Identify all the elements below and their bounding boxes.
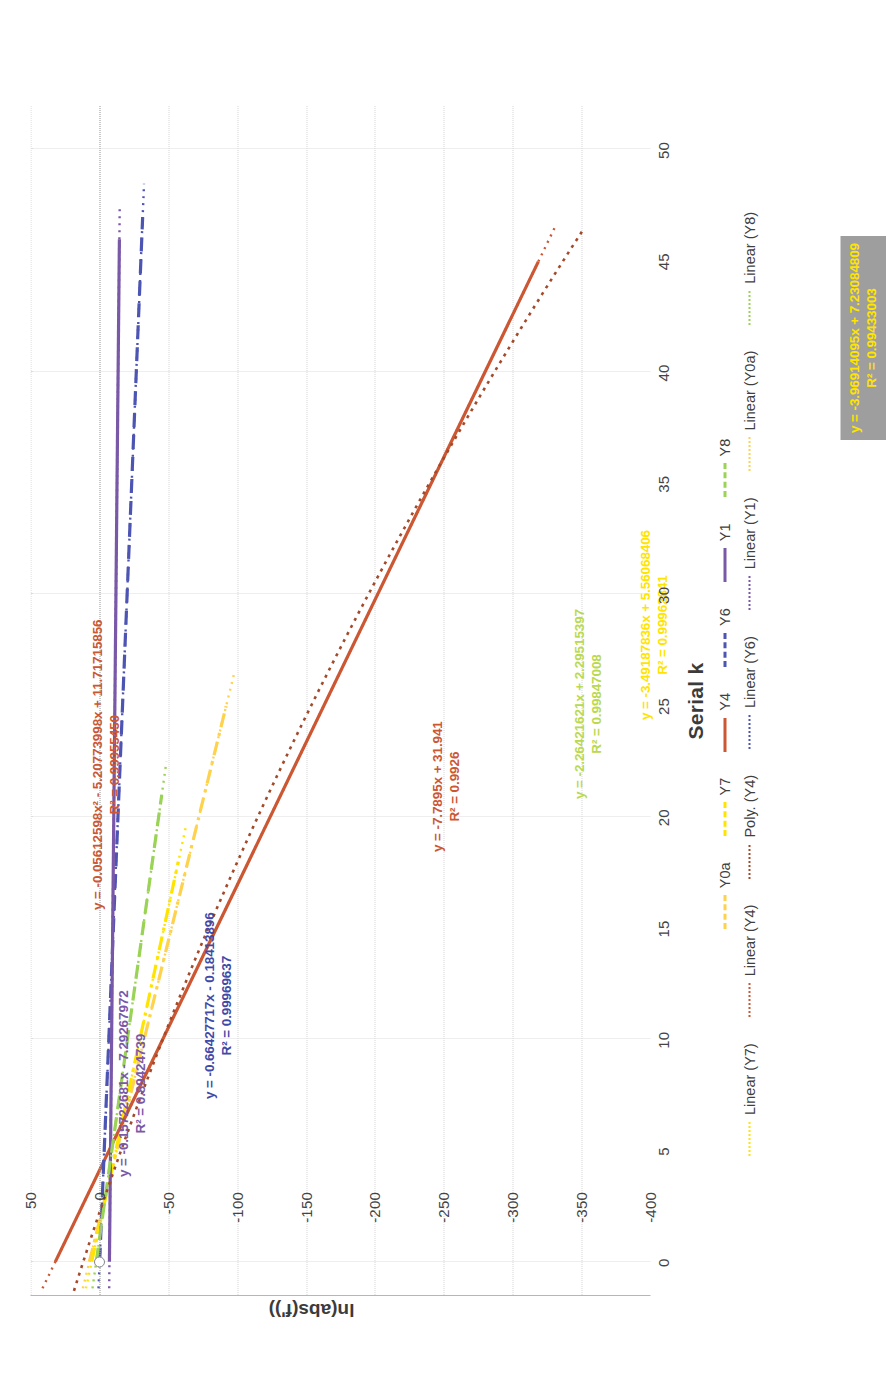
y-tick-label: -350 bbox=[573, 1192, 590, 1252]
legend-swatch-icon bbox=[723, 718, 726, 752]
legend-swatch-icon bbox=[748, 845, 750, 879]
x-tick-label: 30 bbox=[654, 587, 671, 604]
legend-swatch-icon bbox=[723, 895, 726, 929]
y-tick-label: -100 bbox=[228, 1192, 245, 1252]
legend-swatch-icon bbox=[723, 633, 726, 667]
x-tick-label: 45 bbox=[654, 253, 671, 270]
equation-text: y = -2.26421621x + 2.29515397 bbox=[570, 609, 587, 799]
x-tick-label: 25 bbox=[654, 698, 671, 715]
y-tick-label: -300 bbox=[504, 1192, 521, 1252]
origin-marker bbox=[93, 1256, 104, 1267]
equation-text: y = -0.15722681x - 7.29267972 bbox=[114, 990, 131, 1177]
plot-area: y = -0.15722681x - 7.29267972 R² = 0.894… bbox=[30, 106, 650, 1296]
legend-item-y1[interactable]: Y1 bbox=[716, 523, 732, 582]
x-tick-label: 20 bbox=[654, 809, 671, 826]
legend-item-y6[interactable]: Y6 bbox=[716, 608, 732, 667]
x-tick-label: 35 bbox=[654, 476, 671, 493]
x-axis-tick-labels: 05101520253035404550 bbox=[652, 106, 674, 1296]
legend-swatch-icon bbox=[723, 548, 726, 582]
equation-label-linear-y4: y = -7.7895x + 31.941 R² = 0.9926 bbox=[428, 721, 463, 852]
equation-label-poly-y4: y = -0.05612598x² - 5.20773998x + 11.717… bbox=[88, 619, 123, 910]
legend-label: Y1 bbox=[716, 523, 732, 541]
x-tick-label: 50 bbox=[654, 142, 671, 159]
legend-label: Linear (Y1) bbox=[741, 498, 757, 570]
r-squared-text: R² = 0.99955450 bbox=[105, 619, 122, 910]
legend-swatch-icon bbox=[748, 715, 750, 749]
equation-text: y = -3.96914095x + 7.23084809 bbox=[845, 243, 862, 433]
legend-label: Y4 bbox=[716, 693, 732, 711]
legend-label: Poly. (Y4) bbox=[741, 775, 757, 838]
legend-item-linear-y4[interactable]: Linear (Y4) bbox=[741, 905, 757, 1018]
x-tick-label: 15 bbox=[654, 920, 671, 937]
chart-legend: Y0aY7Y4Y6Y1Y8 Linear (Y7)Linear (Y4)Poly… bbox=[716, 54, 766, 1314]
legend-label: Y8 bbox=[716, 439, 732, 457]
legend-label: Y0a bbox=[716, 862, 732, 888]
r-squared-text: R² = 0.99433003 bbox=[862, 243, 879, 433]
legend-item-poly-y4[interactable]: Poly. (Y4) bbox=[741, 775, 757, 879]
y-tick-label: 0 bbox=[90, 1192, 107, 1252]
legend-swatch-icon bbox=[748, 983, 750, 1017]
legend-label: Linear (Y0a) bbox=[741, 351, 757, 431]
equation-text: y = -3.49187836x + 5.56068406 bbox=[636, 530, 653, 720]
legend-item-y7[interactable]: Y7 bbox=[716, 778, 732, 837]
legend-row-trendlines: Linear (Y7)Linear (Y4)Poly. (Y4)Linear (… bbox=[741, 54, 757, 1314]
equation-label-y8: y = -2.26421621x + 2.29515397 R² = 0.998… bbox=[570, 609, 605, 799]
x-tick-label: 10 bbox=[654, 1032, 671, 1049]
y-tick-label: -150 bbox=[297, 1192, 314, 1252]
r-squared-text: R² = 0.99969637 bbox=[217, 912, 234, 1099]
legend-swatch-icon bbox=[748, 1122, 750, 1156]
legend-label: Linear (Y8) bbox=[741, 212, 757, 284]
legend-swatch-icon bbox=[748, 291, 750, 325]
equation-label-y0a-highlighted: y = -3.96914095x + 7.23084809 R² = 0.994… bbox=[840, 236, 886, 440]
legend-item-linear-y7[interactable]: Linear (Y7) bbox=[741, 1043, 757, 1156]
legend-swatch-icon bbox=[748, 576, 750, 610]
equation-text: y = -0.05612598x² - 5.20773998x + 11.717… bbox=[88, 619, 105, 910]
legend-swatch-icon bbox=[723, 463, 726, 497]
r-squared-text: R² = 0.99847008 bbox=[587, 609, 604, 799]
legend-item-linear-y6[interactable]: Linear (Y6) bbox=[741, 636, 757, 749]
legend-item-linear-y0a[interactable]: Linear (Y0a) bbox=[741, 351, 757, 472]
x-tick-label: 5 bbox=[654, 1147, 671, 1156]
y-tick-label: -200 bbox=[366, 1192, 383, 1252]
y-axis-title: ln(abs(f')) bbox=[211, 1299, 411, 1321]
y-tick-label: -50 bbox=[159, 1192, 176, 1252]
x-axis-title: Serial k bbox=[683, 106, 707, 1296]
legend-swatch-icon bbox=[723, 802, 726, 836]
legend-item-linear-y8[interactable]: Linear (Y8) bbox=[741, 212, 757, 325]
legend-label: Linear (Y6) bbox=[741, 636, 757, 708]
legend-item-y0a[interactable]: Y0a bbox=[716, 862, 732, 929]
legend-item-y4[interactable]: Y4 bbox=[716, 693, 732, 752]
legend-row-series: Y0aY7Y4Y6Y1Y8 bbox=[716, 54, 732, 1314]
x-tick-label: 0 bbox=[654, 1258, 671, 1267]
legend-item-linear-y1[interactable]: Linear (Y1) bbox=[741, 498, 757, 611]
equation-text: y = -7.7895x + 31.941 bbox=[428, 721, 445, 852]
legend-label: Y6 bbox=[716, 608, 732, 626]
legend-item-y8[interactable]: Y8 bbox=[716, 439, 732, 498]
r-squared-text: R² = 0.9926 bbox=[445, 721, 462, 852]
y-tick-label: -250 bbox=[435, 1192, 452, 1252]
legend-label: Linear (Y7) bbox=[741, 1043, 757, 1115]
y-tick-label: 50 bbox=[22, 1192, 39, 1252]
x-tick-label: 40 bbox=[654, 364, 671, 381]
legend-label: Linear (Y4) bbox=[741, 905, 757, 977]
equation-label-y1: y = -0.15722681x - 7.29267972 R² = 0.894… bbox=[114, 990, 149, 1177]
equation-text: y = -0.66427717x - 0.18413896 bbox=[200, 912, 217, 1099]
legend-swatch-icon bbox=[748, 438, 750, 472]
legend-label: Y7 bbox=[716, 778, 732, 796]
equation-label-y6: y = -0.66427717x - 0.18413896 R² = 0.999… bbox=[200, 912, 235, 1099]
r-squared-text: R² = 0.89424739 bbox=[131, 990, 148, 1177]
